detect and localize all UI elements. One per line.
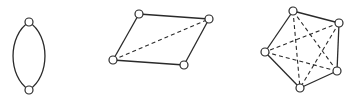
vertex-upper-right <box>335 19 343 27</box>
dashed-edge-upper-right-bottom <box>300 23 339 88</box>
vertex-left <box>261 48 269 56</box>
digon-edges <box>13 22 45 90</box>
quadrilateral-edges <box>113 14 209 65</box>
solid-edge-top-right-bottom-right <box>184 19 209 65</box>
graph-diagram <box>0 0 355 97</box>
digon-vertices <box>25 18 33 94</box>
solid-edge-top-upper-right <box>293 11 339 23</box>
pentagon-vertices <box>261 7 343 92</box>
solid-edge-left-top <box>265 11 293 52</box>
vertex-bottom-right <box>180 61 188 69</box>
dashed-edge-top-bottom <box>293 11 300 88</box>
dashed-edge-upper-right-left <box>265 23 339 52</box>
quadrilateral-graph <box>109 10 213 69</box>
vertex-top-right <box>205 15 213 23</box>
vertex-top <box>289 7 297 15</box>
vertex-bottom <box>296 84 304 92</box>
solid-edge-top-bottom <box>29 22 45 90</box>
vertex-top <box>25 18 33 26</box>
vertex-lower-right <box>333 67 341 75</box>
solid-edge-top-left-top-right <box>139 14 209 19</box>
dashed-edge-lower-right-left <box>265 52 337 71</box>
solid-edge-bottom-right-bottom-left <box>113 60 184 65</box>
solid-edge-top-bottom <box>13 22 29 90</box>
solid-edge-bottom-left-top-left <box>113 14 139 60</box>
vertex-top-left <box>135 10 143 18</box>
solid-edge-bottom-left <box>265 52 300 88</box>
vertex-bottom <box>25 86 33 94</box>
pentagon-graph <box>261 7 343 92</box>
vertex-bottom-left <box>109 56 117 64</box>
dashed-edge-bottom-left-top-right <box>113 19 209 60</box>
pentagon-edges <box>265 11 339 88</box>
digon-graph <box>13 18 45 94</box>
solid-edge-upper-right-lower-right <box>337 23 339 71</box>
